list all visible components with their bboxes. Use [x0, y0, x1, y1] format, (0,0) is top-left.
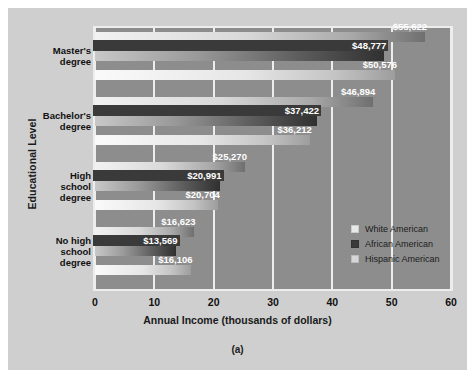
bar-value-label: $48,777: [93, 40, 388, 51]
category-label-line: High: [21, 170, 91, 181]
legend-swatch-icon: [351, 240, 359, 248]
category-label-line: school: [21, 181, 91, 192]
chart-canvas: Educational Level Master'sdegreeBachelor…: [8, 8, 467, 370]
category-label-line: degree: [21, 121, 91, 132]
category-label: Bachelor'sdegree: [21, 110, 91, 132]
category-label-line: school: [21, 246, 91, 257]
category-label-line: degree: [21, 192, 91, 203]
plot-area: $55,622$48,777$50,576$46,894$37,422$36,2…: [93, 26, 453, 291]
bar: [95, 200, 218, 210]
category-label-line: Master's: [21, 45, 91, 56]
category-label-line: Bachelor's: [21, 110, 91, 121]
bar-value-label: $16,623: [93, 216, 198, 227]
bar: [95, 70, 395, 80]
category-label-line: degree: [21, 56, 91, 67]
legend-swatch-icon: [351, 225, 359, 233]
chart-legend: White AmericanAfrican AmericanHispanic A…: [351, 222, 451, 267]
bar-value-label: $20,991: [93, 170, 224, 181]
legend-label: African American: [365, 239, 433, 249]
x-axis-tick-label: 10: [134, 296, 174, 308]
category-label: No highschooldegree: [21, 235, 91, 268]
bar-value-label: $20,704: [93, 189, 222, 200]
bar-value-label: $37,422: [93, 105, 321, 116]
figure-panel: Educational Level Master'sdegreeBachelor…: [0, 0, 475, 378]
bar-value-label: $55,622: [93, 21, 429, 32]
category-label-group: Master'sdegreeBachelor'sdegreeHighschool…: [16, 20, 91, 290]
bar-value-label: $50,576: [93, 59, 399, 70]
category-label-line: degree: [21, 257, 91, 268]
x-axis-tick-label: 50: [372, 296, 412, 308]
category-label: Master'sdegree: [21, 45, 91, 67]
bar-value-label: $46,894: [93, 86, 377, 97]
category-label: Highschooldegree: [21, 170, 91, 203]
bar-value-label: $16,106: [93, 254, 195, 265]
legend-swatch-icon: [351, 255, 359, 263]
legend-item[interactable]: African American: [351, 237, 451, 250]
figure-caption: (a): [8, 344, 467, 355]
legend-label: Hispanic American: [365, 254, 440, 264]
bar: [95, 135, 310, 145]
x-axis-tick-label: 0: [75, 296, 115, 308]
x-axis-title: Annual Income (thousands of dollars): [8, 314, 467, 326]
x-axis-tick-label: 60: [431, 296, 471, 308]
bar: [95, 265, 191, 275]
x-axis-tick-label: 40: [312, 296, 352, 308]
bar-value-label: $36,212: [93, 124, 314, 135]
legend-item[interactable]: Hispanic American: [351, 252, 451, 265]
legend-item[interactable]: White American: [351, 222, 451, 235]
x-axis-tick-label: 20: [194, 296, 234, 308]
x-axis-tick-label: 30: [253, 296, 293, 308]
legend-label: White American: [365, 224, 428, 234]
bar-value-label: $13,569: [93, 235, 180, 246]
bar-value-label: $25,270: [93, 151, 249, 162]
category-label-line: No high: [21, 235, 91, 246]
